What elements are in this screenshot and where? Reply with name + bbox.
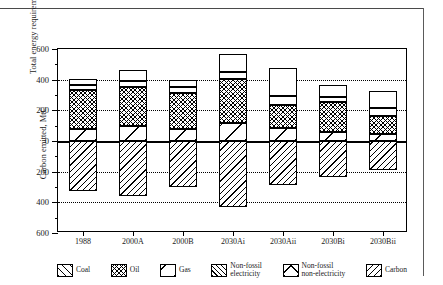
bar-segment-carbon[interactable] (219, 141, 247, 207)
bar-segment[interactable] (69, 129, 97, 141)
bar-segment[interactable] (269, 96, 297, 105)
bar-segment-carbon[interactable] (319, 141, 347, 177)
x-axis-tick (183, 231, 184, 236)
y-axis-tick-label: 0 (45, 137, 49, 146)
bar-segment[interactable] (269, 105, 297, 128)
legend-label: Non-fossil electricity (230, 262, 262, 279)
bar-segment[interactable] (219, 72, 247, 79)
y-axis-tick (52, 110, 58, 111)
bar-segment[interactable] (169, 87, 197, 93)
legend-label: Non-fossil non-electricity (302, 262, 346, 279)
bar-segment[interactable] (169, 80, 197, 88)
x-axis-tick (233, 231, 234, 236)
y-axis-tick (52, 141, 58, 142)
bar-group[interactable] (119, 49, 147, 231)
bar-segment[interactable] (219, 79, 247, 123)
y-axis-minor-tick (55, 156, 59, 157)
legend-swatch-icon (111, 264, 127, 277)
y-axis-tick-label: 400 (36, 75, 49, 84)
bar-group[interactable] (269, 49, 297, 231)
legend-label: Coal (76, 266, 90, 275)
y-axis-minor-tick (55, 126, 59, 127)
x-axis-tick-label: 2030Bii (370, 238, 396, 246)
bar-segment[interactable] (169, 93, 197, 129)
page-rule-top (0, 8, 424, 9)
y-axis-tick-label: 600 (36, 229, 49, 238)
bar-segment[interactable] (319, 85, 347, 97)
bar-segment[interactable] (119, 87, 147, 127)
legend-item[interactable]: Carbon (366, 264, 407, 277)
legend-item[interactable]: Non-fossil non-electricity (283, 262, 346, 279)
bar-segment[interactable] (269, 128, 297, 141)
legend-item[interactable]: Oil (111, 264, 140, 277)
bar-segment[interactable] (69, 79, 97, 85)
y-axis-minor-tick (55, 187, 59, 188)
bar-segment-carbon[interactable] (269, 141, 297, 185)
x-axis-tick-label: 2030Bi (321, 238, 345, 246)
bar-segment[interactable] (119, 126, 147, 141)
bar-segment[interactable] (369, 134, 397, 141)
y-axis-title-top: Total energy requirement, Mtoe (28, 0, 38, 74)
bar-segment-carbon[interactable] (369, 141, 397, 170)
bar-segment[interactable] (219, 123, 247, 141)
bar-segment[interactable] (119, 81, 147, 87)
y-axis-tick (52, 202, 58, 203)
x-axis-tick (283, 231, 284, 236)
legend-label: Gas (179, 266, 191, 275)
y-axis-tick-label: 400 (36, 198, 49, 207)
y-axis-tick-label: 200 (36, 106, 49, 115)
bar-segment[interactable] (69, 85, 97, 90)
x-axis-tick (383, 231, 384, 236)
bar-segment[interactable] (269, 68, 297, 96)
bar-segment[interactable] (69, 90, 97, 128)
legend-swatch-icon (211, 264, 227, 277)
bar-segment-carbon[interactable] (69, 141, 97, 191)
y-axis-tick (52, 49, 58, 50)
x-axis-tick-label: 1988 (75, 238, 91, 246)
y-axis-tick-label: 600 (36, 45, 49, 54)
y-axis-tick-label: 200 (36, 167, 49, 176)
page-rule-right (423, 8, 424, 276)
y-axis-tick (52, 172, 58, 173)
legend-label: Oil (130, 266, 140, 275)
x-axis-tick-label: 2030Ai (221, 238, 245, 246)
legend-item[interactable]: Non-fossil electricity (211, 262, 262, 279)
bar-segment[interactable] (119, 70, 147, 81)
chart-legend: CoalOilGasNon-fossil electricityNon-foss… (57, 257, 407, 283)
y-axis-minor-tick (55, 64, 59, 65)
legend-item[interactable]: Gas (160, 264, 191, 277)
y-axis-tick (52, 233, 58, 234)
y-axis-tick (52, 80, 58, 81)
bar-segment-carbon[interactable] (119, 141, 147, 196)
x-axis-tick-label: 2000A (122, 238, 144, 246)
legend-item[interactable]: Coal (57, 264, 90, 277)
bar-segment[interactable] (169, 129, 197, 141)
y-axis-minor-tick (55, 95, 59, 96)
bar-group[interactable] (369, 49, 397, 231)
bar-segment[interactable] (319, 97, 347, 102)
legend-label: Carbon (385, 266, 407, 275)
x-axis-tick-label: 2030Aii (270, 238, 296, 246)
bar-segment[interactable] (319, 102, 347, 132)
bar-group[interactable] (319, 49, 347, 231)
x-axis-tick (83, 231, 84, 236)
bar-segment[interactable] (369, 91, 397, 108)
bar-group[interactable] (69, 49, 97, 231)
legend-swatch-icon (160, 264, 176, 277)
chart-figure: Total energy requirement, Mtoe Carbon em… (0, 10, 423, 282)
legend-swatch-icon (283, 264, 299, 277)
bar-segment[interactable] (369, 116, 397, 133)
x-axis-tick (333, 231, 334, 236)
x-axis-tick-label: 2000B (172, 238, 193, 246)
x-axis-tick (133, 231, 134, 236)
bar-segment[interactable] (369, 108, 397, 116)
bar-segment[interactable] (319, 132, 347, 141)
y-axis-minor-tick (55, 218, 59, 219)
bar-group[interactable] (169, 49, 197, 231)
bar-segment[interactable] (219, 54, 247, 72)
legend-swatch-icon (366, 264, 382, 277)
plot-area: 600400200020040060019882000A2000B2030Ai2… (57, 48, 407, 232)
bar-group[interactable] (219, 49, 247, 231)
legend-swatch-icon (57, 264, 73, 277)
bar-segment-carbon[interactable] (169, 141, 197, 187)
